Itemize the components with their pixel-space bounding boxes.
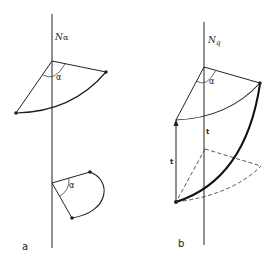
panel-a-upper-angle-arc [43,64,65,77]
point-icon [174,200,178,204]
panel-a: Nα α α a [14,14,108,252]
panel-b-label: b [178,238,184,249]
panel-b-axis-label: Nq [207,35,221,47]
panel-b-vector-label-mid: t [206,128,210,136]
diagram-canvas: Nα α α a Nq [0,0,273,260]
panel-a-lower-sector: α [52,170,104,220]
panel-b-trajectory [176,84,260,202]
point-icon [88,170,92,174]
panel-a-upper-sector: α [14,61,108,115]
panel-a-lower-angle-label: α [69,181,74,190]
panel-a-upper-angle-label: α [56,73,61,82]
panel-b-vector-label-left: t [170,158,174,166]
panel-b-angle-label: α [209,77,214,86]
panel-a-label: a [22,241,28,252]
point-icon [70,216,74,220]
point-icon [14,111,18,115]
panel-b: Nq α t t b [170,22,262,249]
panel-a-axis-label: Nα [54,32,69,42]
panel-b-upper-sector: α [176,67,262,120]
point-icon [104,70,108,74]
